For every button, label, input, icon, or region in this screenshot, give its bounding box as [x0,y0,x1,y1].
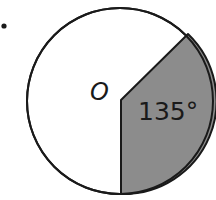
bullet-dot [1,23,6,28]
center-label: O [90,78,109,106]
angle-label: 135° [138,97,198,126]
circle-diagram: O 135° [0,0,216,200]
